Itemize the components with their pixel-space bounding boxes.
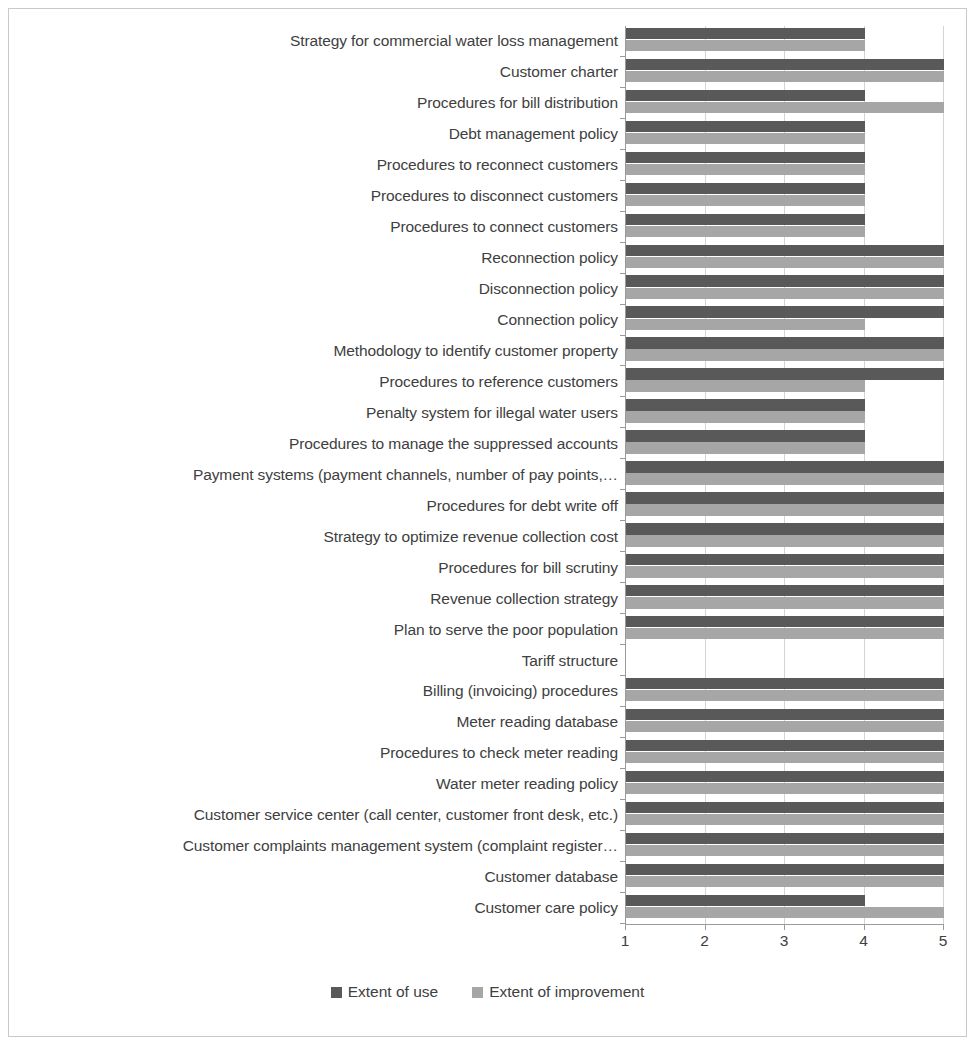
bar-extent-of-use: [626, 461, 944, 472]
bar-extent-of-improvement: [626, 473, 944, 484]
category-label-row: Procedures to reference customers: [120, 366, 618, 397]
x-axis-tick-label-3: 3: [764, 932, 804, 950]
legend-swatch-icon: [331, 987, 342, 998]
category-label-row: Methodology to identify customer propert…: [120, 336, 618, 367]
bar-extent-of-use: [626, 802, 944, 813]
category-label: Customer charter: [500, 63, 618, 81]
bar-row: [625, 862, 943, 893]
bar-extent-of-use: [626, 678, 944, 689]
bar-extent-of-use: [626, 616, 944, 627]
category-label-row: Customer complaints management system (c…: [120, 831, 618, 862]
category-label-row: Billing (invoicing) procedures: [120, 676, 618, 707]
legend-item-1[interactable]: Extent of improvement: [472, 983, 644, 1001]
bar-extent-of-use: [626, 833, 944, 844]
category-label: Debt management policy: [449, 125, 618, 143]
category-label: Reconnection policy: [481, 249, 618, 267]
category-label: Customer complaints management system (c…: [183, 837, 618, 855]
bar-extent-of-improvement: [626, 845, 944, 856]
bar-row: [625, 676, 943, 707]
bar-row: [625, 274, 943, 305]
bar-extent-of-use: [626, 152, 865, 163]
bar-extent-of-use: [626, 90, 865, 101]
category-label-row: Customer database: [120, 862, 618, 893]
x-axis-tick-label-5: 5: [923, 932, 963, 950]
category-label: Procedures to manage the suppressed acco…: [289, 435, 618, 453]
bar-extent-of-use: [626, 523, 944, 534]
category-label-row: Penalty system for illegal water users: [120, 397, 618, 428]
category-label: Procedures to reference customers: [379, 373, 618, 391]
bar-extent-of-improvement: [626, 752, 944, 763]
bar-extent-of-improvement: [626, 783, 944, 794]
category-label-row: Water meter reading policy: [120, 769, 618, 800]
category-label-row: Procedures to reconnect customers: [120, 150, 618, 181]
x-axis-tick-1: [625, 924, 626, 930]
bar-extent-of-improvement: [626, 535, 944, 546]
bar-extent-of-improvement: [626, 133, 865, 144]
bar-extent-of-use: [626, 554, 944, 565]
bar-extent-of-improvement: [626, 195, 865, 206]
bar-row: [625, 521, 943, 552]
bar-extent-of-use: [626, 585, 944, 596]
category-label: Procedures for bill distribution: [417, 94, 618, 112]
bar-extent-of-improvement: [626, 71, 944, 82]
category-label-row: Customer service center (call center, cu…: [120, 800, 618, 831]
category-label-row: Procedures to manage the suppressed acco…: [120, 428, 618, 459]
x-axis-tick-5: [943, 924, 944, 930]
bar-extent-of-improvement: [626, 411, 865, 422]
bar-row: [625, 212, 943, 243]
category-label: Methodology to identify customer propert…: [333, 342, 618, 360]
category-label: Customer care policy: [474, 899, 618, 917]
bar-extent-of-improvement: [626, 226, 865, 237]
category-label-row: Strategy to optimize revenue collection …: [120, 521, 618, 552]
legend-label: Extent of use: [348, 983, 438, 1001]
category-label: Procedures for bill scrutiny: [438, 559, 618, 577]
category-label-row: Procedures for bill distribution: [120, 88, 618, 119]
category-label: Procedures to check meter reading: [380, 744, 618, 762]
category-label-row: Procedures to check meter reading: [120, 738, 618, 769]
category-label: Water meter reading policy: [436, 775, 618, 793]
bar-extent-of-use: [626, 306, 944, 317]
x-axis-tick-2: [705, 924, 706, 930]
category-label: Connection policy: [497, 311, 618, 329]
category-label: Strategy to optimize revenue collection …: [323, 528, 618, 546]
bar-row: [625, 336, 943, 367]
bar-extent-of-improvement: [626, 597, 944, 608]
bar-extent-of-improvement: [626, 628, 944, 639]
bar-row: [625, 583, 943, 614]
bar-row: [625, 397, 943, 428]
bar-row: [625, 707, 943, 738]
bar-extent-of-improvement: [626, 504, 944, 515]
x-axis-tick-label-2: 2: [685, 932, 725, 950]
x-axis-tick-label-1: 1: [605, 932, 645, 950]
legend-item-0[interactable]: Extent of use: [331, 983, 438, 1001]
x-axis-tick-4: [864, 924, 865, 930]
bar-extent-of-use: [626, 430, 865, 441]
category-label: Penalty system for illegal water users: [366, 404, 618, 422]
x-axis-tick-label-4: 4: [844, 932, 884, 950]
category-label: Procedures to reconnect customers: [377, 156, 618, 174]
bar-extent-of-improvement: [626, 814, 944, 825]
bar-extent-of-use: [626, 275, 944, 286]
bar-row: [625, 428, 943, 459]
bar-row: [625, 88, 943, 119]
bar-extent-of-use: [626, 183, 865, 194]
bar-row: [625, 305, 943, 336]
bar-row: [625, 893, 943, 924]
bar-extent-of-improvement: [626, 442, 865, 453]
category-label: Revenue collection strategy: [430, 590, 618, 608]
category-label-row: Procedures for bill scrutiny: [120, 552, 618, 583]
category-label-row: Customer care policy: [120, 893, 618, 924]
bar-extent-of-use: [626, 740, 944, 751]
bar-row: [625, 366, 943, 397]
category-label: Plan to serve the poor population: [394, 621, 618, 639]
category-label-row: Procedures to connect customers: [120, 212, 618, 243]
category-label-row: Debt management policy: [120, 119, 618, 150]
category-label-row: Reconnection policy: [120, 243, 618, 274]
bar-extent-of-use: [626, 368, 944, 379]
category-label: Customer database: [484, 868, 618, 886]
category-label: Strategy for commercial water loss manag…: [290, 32, 618, 50]
category-label: Payment systems (payment channels, numbe…: [193, 466, 618, 484]
bar-row: [625, 57, 943, 88]
bar-extent-of-use: [626, 492, 944, 503]
bar-extent-of-use: [626, 121, 865, 132]
